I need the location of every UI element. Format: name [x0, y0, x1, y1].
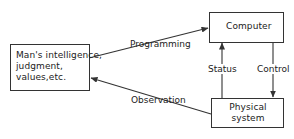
physical-line-1: Physical — [226, 102, 270, 113]
physical-system-text: Physical system — [226, 102, 270, 124]
human-judgment-text: Man's intelligence, judgment, values,etc… — [16, 50, 102, 83]
computer-label: Computer — [226, 21, 272, 32]
human-line-3: values,etc. — [16, 72, 102, 83]
observation-label: Observation — [131, 95, 186, 105]
programming-label: Programming — [130, 39, 191, 49]
status-label: Status — [208, 64, 237, 74]
physical-line-2: system — [226, 113, 270, 124]
human-line-1: Man's intelligence, — [16, 50, 102, 61]
control-label: Control — [257, 64, 290, 74]
human-line-2: judgment, — [16, 61, 102, 72]
